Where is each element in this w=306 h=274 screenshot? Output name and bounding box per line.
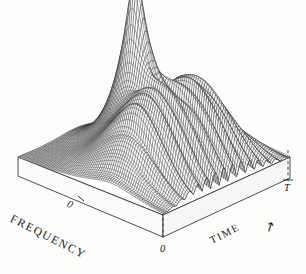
time-axis-tick-0: 0 [160, 243, 167, 254]
time-axis-tick-T: T [284, 182, 291, 193]
